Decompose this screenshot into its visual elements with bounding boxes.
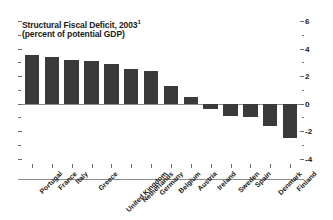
y-tick-minor [18, 35, 21, 36]
bar [144, 71, 158, 104]
y-tick-minor [18, 62, 21, 63]
bar [184, 97, 198, 104]
bar [124, 69, 138, 103]
y-tick-major [18, 104, 22, 105]
x-tick [250, 164, 251, 168]
bar [84, 61, 98, 104]
y-tick-minor [302, 145, 305, 146]
bar [243, 104, 257, 118]
x-tick [290, 164, 291, 168]
bar [203, 104, 217, 110]
x-tick [171, 164, 172, 168]
y-tick-minor [302, 35, 305, 36]
y-tick-minor [18, 145, 21, 146]
y-tick-label: 6 [305, 17, 325, 26]
chart-container: Structural Fiscal Deficit, 20031 (percen… [0, 0, 333, 220]
y-tick-major [18, 49, 22, 50]
bar [64, 60, 78, 104]
x-tick [211, 164, 212, 168]
y-tick-major [18, 131, 22, 132]
x-tick [52, 164, 53, 168]
x-tick [151, 164, 152, 168]
y-tick-major [300, 159, 304, 160]
x-tick [270, 164, 271, 168]
y-tick-label: 2 [305, 72, 325, 81]
x-tick [111, 164, 112, 168]
y-tick-major [300, 21, 304, 22]
bar [283, 104, 297, 138]
y-tick-label: 0 [305, 99, 325, 108]
y-tick-minor [302, 62, 305, 63]
x-tick [32, 164, 33, 168]
bar [45, 57, 59, 104]
y-tick-major [18, 76, 22, 77]
bar [25, 55, 39, 103]
zero-baseline [18, 104, 304, 105]
x-tick [72, 164, 73, 168]
y-tick-major [300, 104, 304, 105]
bar [104, 64, 118, 104]
y-tick-major [300, 131, 304, 132]
x-tick [231, 164, 232, 168]
x-tick [131, 164, 132, 168]
y-tick-major [300, 76, 304, 77]
category-label: Greece [96, 170, 118, 192]
x-tick [191, 164, 192, 168]
y-tick-minor [302, 117, 305, 118]
y-tick-major [18, 159, 22, 160]
y-tick-minor [302, 90, 305, 91]
y-tick-major [300, 49, 304, 50]
bar [263, 104, 277, 126]
y-tick-major [18, 21, 22, 22]
plot-area [18, 16, 304, 164]
y-tick-label: 4 [305, 44, 325, 53]
x-tick [92, 164, 93, 168]
category-label: Ireland [215, 170, 236, 191]
y-tick-minor [18, 117, 21, 118]
y-tick-label: -4 [305, 154, 325, 163]
bar [223, 104, 237, 116]
y-tick-minor [18, 90, 21, 91]
y-tick-label: -2 [305, 127, 325, 136]
bar [164, 86, 178, 104]
